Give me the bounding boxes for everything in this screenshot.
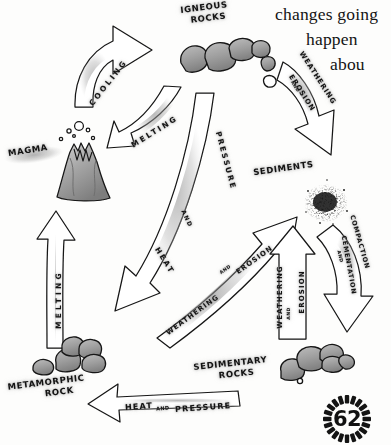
metamorphic-rocks-illustration: [33, 337, 106, 375]
sediments-illustration: [300, 178, 352, 226]
volcano-illustration: [57, 122, 110, 201]
sedimentary-rocks-illustration: [281, 344, 355, 383]
igneous-rocks-illustration: [181, 38, 276, 87]
page-number-badge: 62: [320, 394, 374, 444]
textbook-page: changes going happen abou: [0, 0, 391, 445]
page-number-value: 62: [320, 394, 374, 444]
